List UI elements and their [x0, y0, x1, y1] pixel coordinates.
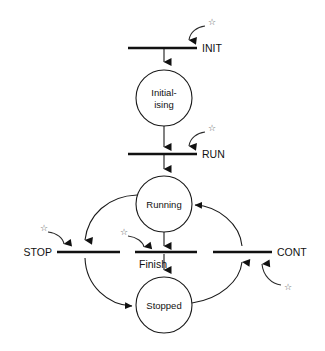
arc-cont-to-running: [195, 205, 242, 246]
place-label-running: Running: [146, 199, 181, 210]
transition-finish[interactable]: Finish: [135, 252, 197, 270]
transition-cont[interactable]: CONT: [213, 246, 307, 258]
star-icon-init: ☆: [208, 17, 216, 27]
external-event-cont: ☆: [262, 264, 292, 292]
transition-label-finish: Finish: [139, 258, 167, 270]
star-icon-finish: ☆: [120, 227, 128, 237]
place-stopped[interactable]: Stopped: [136, 277, 192, 333]
diagram-canvas: INIT RUN STOP Finish CONT ☆ ☆: [0, 0, 325, 351]
external-event-finish: ☆: [120, 227, 144, 247]
transition-label-run: RUN: [202, 148, 225, 160]
transition-label-stop: STOP: [24, 246, 52, 258]
state-transition-diagram: INIT RUN STOP Finish CONT ☆ ☆: [0, 0, 325, 351]
place-initialising[interactable]: Initial- ising: [136, 70, 192, 126]
transition-stop[interactable]: STOP: [24, 246, 120, 258]
transition-label-init: INIT: [202, 42, 222, 54]
arc-stop-to-stopped: [85, 258, 132, 306]
place-label-stopped: Stopped: [146, 300, 181, 311]
place-label-initialising-line2: ising: [154, 99, 174, 110]
external-event-init: ☆: [189, 17, 216, 40]
transition-label-cont: CONT: [277, 246, 307, 258]
place-circle-initialising[interactable]: [136, 70, 192, 126]
star-icon-cont: ☆: [284, 282, 292, 292]
transition-run[interactable]: RUN: [128, 148, 225, 160]
arc-stopped-to-cont: [192, 262, 242, 303]
arc-running-to-stop: [85, 195, 137, 240]
place-running[interactable]: Running: [136, 176, 192, 232]
star-icon-run: ☆: [208, 123, 216, 133]
transition-init[interactable]: INIT: [128, 42, 222, 54]
place-label-initialising-line1: Initial-: [151, 87, 176, 98]
external-event-run: ☆: [189, 123, 216, 146]
external-event-stop: ☆: [40, 223, 64, 244]
star-icon-stop: ☆: [40, 223, 48, 233]
